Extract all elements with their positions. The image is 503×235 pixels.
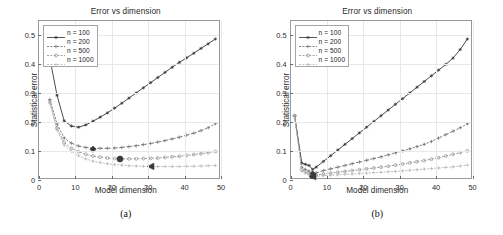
y-axis-tick <box>290 180 293 181</box>
legend-item[interactable]: n = 500 <box>298 46 346 55</box>
y-axis-tick-label: 0 <box>282 176 286 185</box>
subcaption-a: (a) <box>0 208 252 219</box>
legend-line-marker-icon <box>46 37 66 46</box>
plot-area-b: n = 100n = 200n = 500n = 1000 0102030405… <box>290 20 472 179</box>
legend-item[interactable]: n = 1000 <box>298 55 346 64</box>
grid-line-horizontal <box>291 93 471 94</box>
x-axis-label-b: Model dimension <box>252 186 503 195</box>
legend-line-marker-icon <box>298 28 318 37</box>
legend-item[interactable]: n = 500 <box>46 46 94 55</box>
grid-line-horizontal <box>291 151 471 152</box>
y-axis-tick-label: 0 <box>31 176 35 185</box>
legend-line-marker-icon <box>298 55 318 64</box>
grid-line-horizontal <box>291 122 471 123</box>
legend-line-marker-icon <box>298 37 318 46</box>
grid-line-horizontal <box>39 93 219 94</box>
y-axis-tick-label: 0.2 <box>25 118 35 127</box>
grid-line-vertical <box>363 21 364 178</box>
y-axis-tick <box>290 151 293 152</box>
x-axis-tick <box>185 176 186 179</box>
x-axis-tick <box>112 176 113 179</box>
y-axis-tick <box>38 35 41 36</box>
legend-item[interactable]: n = 100 <box>46 28 94 37</box>
legend-item-label: n = 1000 <box>318 56 346 63</box>
grid-line-vertical <box>112 21 113 178</box>
legend-item-label: n = 500 <box>66 47 90 54</box>
x-axis-label-a: Model dimension <box>0 186 252 195</box>
x-axis-tick <box>327 176 328 179</box>
y-axis-tick <box>38 64 41 65</box>
x-axis-tick <box>473 176 474 179</box>
y-axis-tick <box>38 180 41 181</box>
y-axis-tick <box>38 93 41 94</box>
subcaption-b: (b) <box>252 208 503 219</box>
grid-line-vertical <box>221 21 222 178</box>
legend-item-label: n = 100 <box>318 29 342 36</box>
x-axis-tick <box>75 176 76 179</box>
x-axis-tick <box>148 176 149 179</box>
legend-item[interactable]: n = 200 <box>46 37 94 46</box>
legend-line-marker-icon <box>298 46 318 55</box>
plot-area-a: n = 100n = 200n = 500n = 1000 0102030405… <box>38 20 220 179</box>
panel-a: Error vs dimension Statistical error n =… <box>0 0 252 235</box>
grid-line-vertical <box>400 21 401 178</box>
legend-item-label: n = 1000 <box>66 56 94 63</box>
y-axis-tick <box>290 93 293 94</box>
y-axis-tick-label: 0.5 <box>25 31 35 40</box>
legend-item-label: n = 100 <box>66 29 90 36</box>
grid-line-horizontal <box>39 151 219 152</box>
x-axis-tick <box>291 176 292 179</box>
legend-line-marker-icon <box>46 55 66 64</box>
grid-line-vertical <box>436 21 437 178</box>
y-axis-tick-label: 0.1 <box>25 147 35 156</box>
legend-line-marker-icon <box>46 28 66 37</box>
x-axis-tick <box>363 176 364 179</box>
grid-line-vertical <box>185 21 186 178</box>
grid-line-horizontal <box>39 122 219 123</box>
x-axis-tick <box>436 176 437 179</box>
legend-item[interactable]: n = 200 <box>298 37 346 46</box>
figure-two-panel-error-plots: Error vs dimension Statistical error n =… <box>0 0 503 235</box>
y-axis-tick-label: 0.3 <box>25 89 35 98</box>
y-axis-tick <box>38 122 41 123</box>
y-axis-tick-label: 0.4 <box>276 60 286 69</box>
legend-item[interactable]: n = 1000 <box>46 55 94 64</box>
x-axis-tick <box>221 176 222 179</box>
y-axis-tick-label: 0.4 <box>25 60 35 69</box>
y-axis-tick-label: 0.2 <box>276 118 286 127</box>
y-axis-tick <box>38 151 41 152</box>
y-axis-tick <box>290 64 293 65</box>
x-axis-tick <box>39 176 40 179</box>
y-axis-tick-label: 0.3 <box>276 89 286 98</box>
legend-item[interactable]: n = 100 <box>298 28 346 37</box>
legend-item-label: n = 200 <box>66 38 90 45</box>
legend-item-label: n = 200 <box>318 38 342 45</box>
y-axis-tick <box>290 122 293 123</box>
legend-a[interactable]: n = 100n = 200n = 500n = 1000 <box>43 25 98 67</box>
y-axis-tick-label: 0.5 <box>276 31 286 40</box>
y-axis-tick <box>290 35 293 36</box>
y-axis-tick-label: 0.1 <box>276 147 286 156</box>
grid-line-vertical <box>473 21 474 178</box>
chart-title-a: Error vs dimension <box>0 7 252 16</box>
panel-b: Error vs dimension Statistical error n =… <box>252 0 503 235</box>
chart-title-b: Error vs dimension <box>252 7 503 16</box>
grid-line-vertical <box>148 21 149 178</box>
legend-b[interactable]: n = 100n = 200n = 500n = 1000 <box>295 25 350 67</box>
legend-item-label: n = 500 <box>318 47 342 54</box>
legend-line-marker-icon <box>46 46 66 55</box>
x-axis-tick <box>400 176 401 179</box>
